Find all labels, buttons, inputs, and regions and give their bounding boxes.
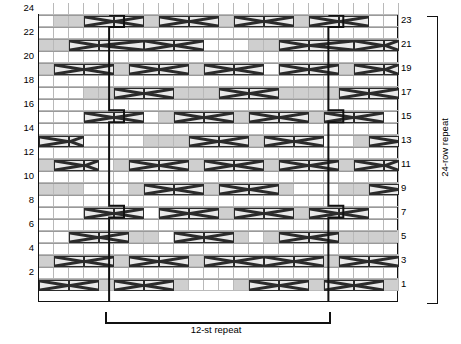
chart-cell <box>279 3 294 15</box>
chart-cell <box>309 243 324 255</box>
row-number: 7 <box>401 207 427 217</box>
chart-cell <box>264 159 279 171</box>
chart-cell <box>84 3 99 15</box>
chart-cell <box>69 267 84 279</box>
chart-cell <box>249 243 264 255</box>
chart-cell <box>114 27 129 39</box>
chart-cell <box>249 27 264 39</box>
chart-cell <box>54 183 69 195</box>
chart-cell <box>354 27 369 39</box>
chart-cell <box>309 123 324 135</box>
cable-cross-symbol <box>219 136 249 147</box>
chart-cell <box>69 15 84 27</box>
chart-cell <box>54 39 69 51</box>
row-number: 5 <box>401 231 427 241</box>
chart-cell <box>54 231 69 243</box>
row-number: 8 <box>8 195 34 205</box>
chart-cell <box>189 63 204 75</box>
cable-cross-symbol <box>84 64 114 75</box>
chart-cell <box>144 99 159 111</box>
chart-cell <box>84 75 99 87</box>
chart-cell <box>114 147 129 159</box>
chart-cell <box>384 147 399 159</box>
row-number: 23 <box>401 15 427 25</box>
chart-cell <box>99 27 114 39</box>
cable-cross-symbol <box>279 112 309 123</box>
cable-cross-symbol <box>84 160 99 171</box>
chart-cell <box>309 3 324 15</box>
chart-cell <box>309 75 324 87</box>
chart-cell <box>249 195 264 207</box>
chart-cell <box>174 243 189 255</box>
cable-cross-symbol <box>384 40 399 51</box>
row-number: 6 <box>8 219 34 229</box>
chart-cell <box>84 183 99 195</box>
row-number: 2 <box>8 267 34 277</box>
chart-cell <box>84 99 99 111</box>
chart-cell <box>369 27 384 39</box>
cable-cross-symbol <box>264 256 294 267</box>
cable-cross-symbol <box>174 232 204 243</box>
chart-cell <box>144 219 159 231</box>
cable-cross-symbol <box>279 232 309 243</box>
chart-cell <box>159 267 174 279</box>
row-divider <box>39 123 397 124</box>
chart-cell <box>99 51 114 63</box>
chart-cell <box>69 3 84 15</box>
chart-cell <box>339 183 354 195</box>
cable-cross-symbol <box>114 208 144 219</box>
chart-cell <box>39 111 54 123</box>
chart-cell <box>144 243 159 255</box>
chart-cell <box>99 171 114 183</box>
chart-cell <box>84 123 99 135</box>
cable-cross-symbol <box>189 136 219 147</box>
chart-cell <box>384 3 399 15</box>
chart-cell <box>369 171 384 183</box>
chart-cell <box>324 135 339 147</box>
chart-cell <box>294 123 309 135</box>
chart-cell <box>159 195 174 207</box>
chart-cell <box>219 51 234 63</box>
chart-cell <box>294 195 309 207</box>
cable-cross-symbol <box>99 40 144 51</box>
chart-cell <box>384 231 399 243</box>
cable-cross-symbol <box>264 136 294 147</box>
chart-cell <box>384 207 399 219</box>
cable-cross-symbol <box>69 232 99 243</box>
cable-cross-symbol <box>129 160 159 171</box>
chart-cell <box>339 267 354 279</box>
row-repeat-label: 24-row repeat <box>439 88 450 208</box>
chart-cell <box>354 51 369 63</box>
chart-cell <box>144 75 159 87</box>
chart-cell <box>99 135 114 147</box>
chart-cell <box>54 111 69 123</box>
chart-cell <box>174 87 189 99</box>
chart-cell <box>204 219 219 231</box>
chart-cell <box>204 27 219 39</box>
row-number: 17 <box>401 87 427 97</box>
chart-cell <box>144 51 159 63</box>
chart-cell <box>369 51 384 63</box>
chart-cell <box>144 3 159 15</box>
chart-cell <box>234 123 249 135</box>
chart-cell <box>234 75 249 87</box>
chart-cell <box>279 243 294 255</box>
chart-cell <box>279 147 294 159</box>
stitch-repeat-label: 12-st repeat <box>105 324 327 335</box>
chart-cell <box>39 51 54 63</box>
cable-cross-symbol <box>189 16 219 27</box>
chart-cell <box>324 123 339 135</box>
chart-cell <box>144 231 159 243</box>
chart-cell <box>384 219 399 231</box>
chart-cell <box>204 279 219 291</box>
chart-cell <box>249 51 264 63</box>
chart-cell <box>189 267 204 279</box>
chart-cell <box>294 267 309 279</box>
chart-cell <box>54 243 69 255</box>
chart-cell <box>99 99 114 111</box>
chart-cell <box>69 51 84 63</box>
chart-cell <box>354 147 369 159</box>
chart-cell <box>264 75 279 87</box>
chart-cell <box>189 99 204 111</box>
chart-cell <box>174 219 189 231</box>
